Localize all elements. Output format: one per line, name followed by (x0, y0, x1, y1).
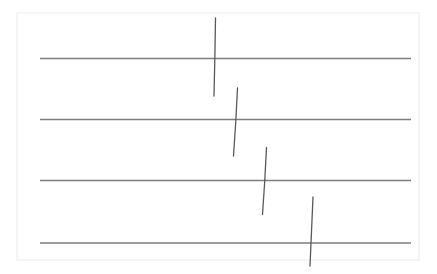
line-crossing-figure (0, 0, 437, 274)
page-frame (17, 13, 419, 260)
figure-canvas (0, 0, 437, 274)
